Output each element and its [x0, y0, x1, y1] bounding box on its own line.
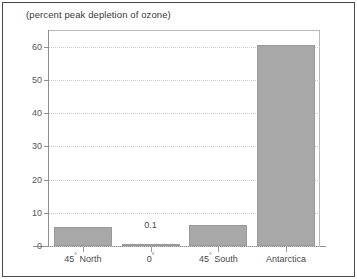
gridline [49, 246, 320, 247]
bar [122, 244, 180, 246]
x-axis-tick-mark [286, 247, 287, 252]
y-axis-tick-label: 50 [32, 75, 42, 85]
x-axis-tick-label: 45° North [64, 254, 101, 264]
y-axis-tick-label: 40 [32, 108, 42, 118]
y-axis-tick-label: 20 [32, 175, 42, 185]
bar [257, 45, 315, 246]
plot-area [49, 30, 320, 246]
x-axis-tick-label: 45° South [199, 254, 238, 264]
y-axis-tick-label: 30 [32, 141, 42, 151]
bar [189, 225, 247, 246]
bar-value-label: 0.1 [144, 220, 157, 230]
y-axis-tick-mark [44, 213, 49, 214]
x-axis-tick-mark [83, 247, 84, 252]
x-axis-tick-label: Antarctica [266, 254, 306, 264]
y-axis-tick-label: 60 [32, 42, 42, 52]
y-axis-tick-mark [44, 180, 49, 181]
bar [54, 227, 112, 246]
chart-figure: (percent peak depletion of ozone) 010203… [0, 0, 357, 279]
y-axis-tick-mark [44, 47, 49, 48]
x-axis-tick-label: 0° [147, 254, 155, 264]
y-axis-tick-mark [44, 113, 49, 114]
y-axis-tick-mark [44, 146, 49, 147]
y-axis-tick-label: 10 [32, 208, 42, 218]
x-axis-tick-mark [218, 247, 219, 252]
chart-title: (percent peak depletion of ozone) [26, 9, 171, 20]
y-axis-tick-label: 0 [37, 241, 42, 251]
y-axis-tick-mark [44, 80, 49, 81]
y-axis-tick-mark [44, 246, 49, 247]
